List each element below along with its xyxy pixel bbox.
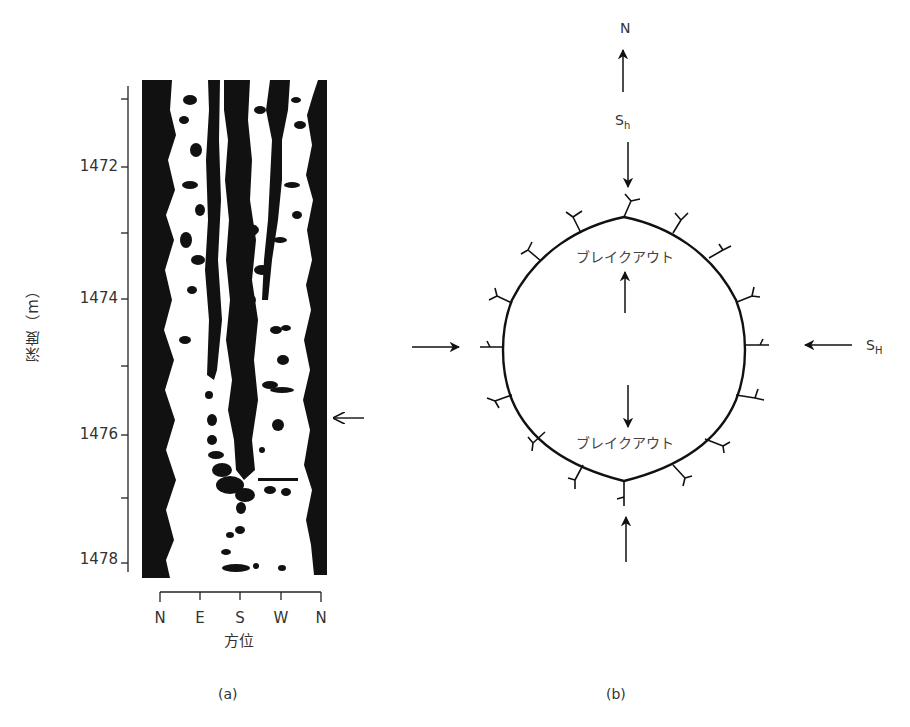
fracture-ticks xyxy=(480,194,769,506)
borehole-outline xyxy=(503,217,745,481)
azimuth-axis xyxy=(160,592,321,602)
depth-axis xyxy=(121,86,128,572)
borehole-image-log xyxy=(142,80,327,578)
stress-arrows xyxy=(412,50,852,562)
figure-graphics xyxy=(0,0,910,727)
